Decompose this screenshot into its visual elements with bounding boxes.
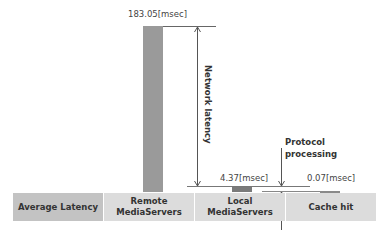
table-cell-cache: Cache hit: [286, 193, 376, 221]
cell-line2: MediaServers: [207, 207, 273, 218]
cell-line2: MediaServers: [116, 207, 182, 218]
network-latency-label: Network latency: [203, 65, 213, 144]
cell-line1: Remote: [116, 196, 182, 207]
cell-line1: Cache hit: [309, 202, 354, 213]
protocol-line2: processing: [285, 148, 337, 160]
protocol-line1: Protocol: [285, 136, 337, 148]
table-cell-remote: Remote MediaServers: [104, 193, 194, 221]
table-cell-local: Local MediaServers: [195, 193, 285, 221]
table-header-average-latency: Average Latency: [13, 193, 103, 221]
cell-line1: Local: [207, 196, 273, 207]
header-label: Average Latency: [18, 202, 98, 213]
protocol-processing-label: Protocol processing: [285, 136, 337, 160]
